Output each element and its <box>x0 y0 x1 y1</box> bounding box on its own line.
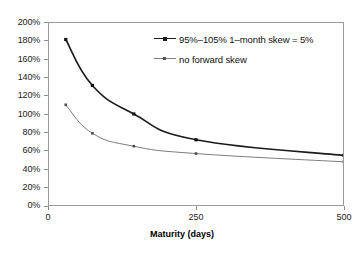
data-point-marker <box>91 84 94 87</box>
axis-line-left <box>48 22 49 206</box>
data-point-marker <box>132 112 135 115</box>
ytick-label: 160% <box>0 54 40 64</box>
legend-label: 95%–105% 1–month skew = 5% <box>179 34 313 45</box>
ytick-label: 120% <box>0 90 40 100</box>
xtick-label: 0 <box>28 212 68 222</box>
axis-line-top <box>48 22 344 23</box>
legend-item: 95%–105% 1–month skew = 5% <box>154 32 313 46</box>
axis-line-bottom <box>48 205 344 206</box>
legend-label: no forward skew <box>179 54 247 65</box>
data-point-marker <box>195 152 198 155</box>
legend-item: no forward skew <box>154 52 247 66</box>
ytick-label: 180% <box>0 35 40 45</box>
xtick-mark <box>196 206 197 210</box>
xtick-mark <box>344 206 345 210</box>
xtick-mark <box>48 206 49 210</box>
chart-figure: 200% 180% 160% 140% 120% 100% 80% 60% 40… <box>0 0 364 261</box>
ytick-label: 20% <box>0 182 40 192</box>
data-point-marker <box>194 138 197 141</box>
ytick-label: 80% <box>0 127 40 137</box>
series-line <box>66 105 344 162</box>
ytick-label: 200% <box>0 17 40 27</box>
data-point-marker <box>91 132 94 135</box>
ytick-label: 100% <box>0 109 40 119</box>
xtick-label: 250 <box>176 212 216 222</box>
ytick-label: 40% <box>0 164 40 174</box>
chart-legend: 95%–105% 1–month skew = 5% no forward sk… <box>154 30 354 70</box>
ytick-label: 60% <box>0 145 40 155</box>
legend-line-icon <box>154 54 176 64</box>
xtick-label: 500 <box>324 212 364 222</box>
x-axis-title: Maturity (days) <box>0 229 364 239</box>
legend-line-icon <box>154 34 176 44</box>
ytick-label: 140% <box>0 72 40 82</box>
ytick-label: 0% <box>0 200 40 210</box>
data-point-marker <box>64 38 67 41</box>
data-point-marker <box>133 145 136 148</box>
data-point-marker <box>64 104 67 107</box>
